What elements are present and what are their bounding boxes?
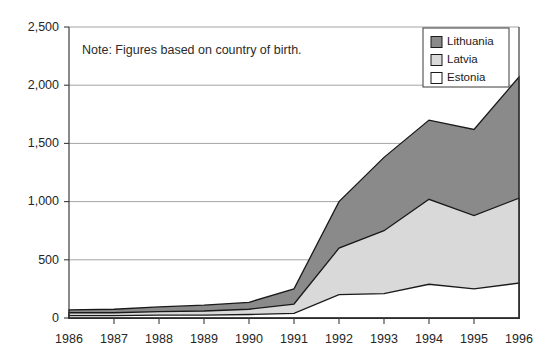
legend-label-estonia: Estonia — [447, 71, 486, 83]
legend: LithuaniaLatviaEstonia — [423, 28, 509, 87]
x-axis-tick-label: 1994 — [415, 332, 443, 346]
y-axis-tick-label: 1,500 — [28, 136, 59, 150]
x-axis-tick-label: 1996 — [505, 332, 533, 346]
x-axis-tick-label: 1991 — [280, 332, 308, 346]
x-axis-tick-label: 1989 — [190, 332, 218, 346]
legend-label-latvia: Latvia — [447, 53, 478, 65]
x-axis-tick-label: 1995 — [460, 332, 488, 346]
legend-label-lithuania: Lithuania — [447, 35, 494, 47]
x-axis-tick-label: 1988 — [145, 332, 173, 346]
chart-note: Note: Figures based on country of birth. — [82, 43, 302, 57]
legend-swatch-latvia — [431, 55, 442, 66]
x-axis-tick-label: 1987 — [100, 332, 128, 346]
x-axis-tick-label: 1993 — [370, 332, 398, 346]
legend-swatch-lithuania — [431, 37, 442, 48]
y-axis-tick-label: 500 — [38, 253, 59, 267]
y-axis-tick-label: 0 — [52, 311, 59, 325]
x-axis-tick-label: 1992 — [325, 332, 353, 346]
legend-swatch-estonia — [431, 73, 442, 84]
chart-container: 05001,0001,5002,0002,500 198619871988198… — [0, 0, 556, 359]
y-axis-tick-label: 2,500 — [28, 20, 59, 34]
stacked-area-chart: 05001,0001,5002,0002,500 198619871988198… — [0, 0, 556, 359]
y-axis-tick-label: 1,000 — [28, 194, 59, 208]
y-axis-tick-label: 2,000 — [28, 78, 59, 92]
x-axis-tick-label: 1990 — [235, 332, 263, 346]
x-axis-tick-label: 1986 — [55, 332, 83, 346]
